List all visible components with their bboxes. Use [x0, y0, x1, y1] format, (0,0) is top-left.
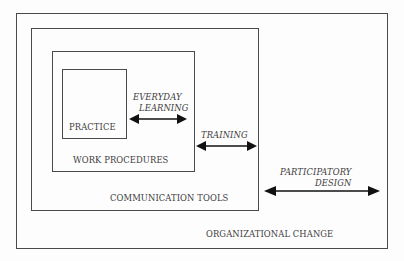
double-arrow-icon — [129, 114, 187, 124]
double-arrow-icon — [196, 141, 257, 151]
double-arrow-icon — [264, 186, 380, 196]
participatory-design-label-line1: PARTICIPATORY — [280, 167, 351, 177]
training-label: TRAINING — [201, 130, 248, 140]
practice-label: PRACTICE — [69, 122, 116, 132]
everyday-learning-label-line1: EVERYDAY — [133, 92, 182, 102]
organizational-change-label: ORGANIZATIONAL CHANGE — [206, 229, 333, 239]
work-procedures-label: WORK PROCEDURES — [73, 155, 168, 165]
communication-tools-label: COMMUNICATION TOOLS — [110, 193, 228, 203]
everyday-learning-label-line2: LEARNING — [139, 103, 188, 113]
